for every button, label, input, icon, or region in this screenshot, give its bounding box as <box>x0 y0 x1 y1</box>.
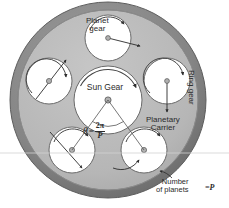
equals-sign: = <box>89 126 94 136</box>
theta-fraction: 2π P <box>95 122 105 140</box>
ring-gear-label: Ring gear <box>187 70 195 105</box>
planet-gear-label-line2: gear <box>86 25 109 33</box>
planetary-gear-diagram: Planet gear Sun Gear Planetary Carrier R… <box>0 0 229 208</box>
planetary-carrier-label-line2: Carrier <box>146 124 180 132</box>
planet-gear-label: Planet gear <box>86 17 109 34</box>
fraction-denominator: P <box>97 132 104 140</box>
fraction-numerator: 2π <box>95 122 105 130</box>
theta-symbol: θ <box>83 126 88 136</box>
number-of-planets-label: Number of planets <box>156 178 189 194</box>
planet-hub <box>165 79 170 84</box>
number-of-planets-line2: of planets <box>156 186 189 194</box>
sun-gear-label: Sun Gear <box>74 83 136 92</box>
number-of-planets-value: =P <box>205 183 214 192</box>
planet-hub <box>46 78 51 83</box>
planetary-carrier-label: Planetary Carrier <box>146 116 180 133</box>
planet-gear-left <box>26 58 72 104</box>
planet-hub <box>106 36 111 41</box>
theta-equation: θ = 2π P <box>83 122 105 140</box>
